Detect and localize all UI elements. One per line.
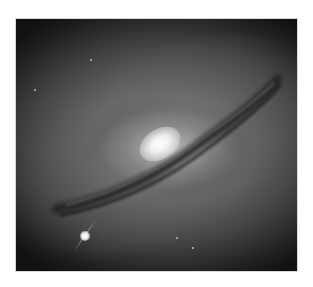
faint-star xyxy=(176,237,178,239)
foreground-star xyxy=(80,231,90,241)
galaxy-photo xyxy=(16,19,297,271)
faint-star xyxy=(90,59,92,61)
dust-lane xyxy=(16,19,297,271)
faint-star xyxy=(34,89,36,91)
faint-star xyxy=(192,247,194,249)
